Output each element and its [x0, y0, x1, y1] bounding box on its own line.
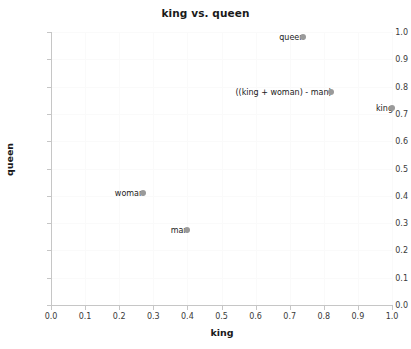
- gridline-horizontal: [51, 223, 392, 224]
- y-tick-mark: [47, 32, 51, 33]
- y-tick-label: 0.3: [367, 219, 411, 228]
- data-point-marker: [389, 105, 395, 111]
- x-tick-mark: [222, 306, 223, 310]
- x-tick-mark: [256, 306, 257, 310]
- x-tick-mark: [358, 306, 359, 310]
- data-point-marker: [140, 190, 146, 196]
- x-tick-mark: [290, 306, 291, 310]
- y-axis-label: queen: [4, 130, 15, 190]
- x-tick-label: 0.2: [113, 312, 126, 321]
- x-tick-mark: [51, 306, 52, 310]
- x-tick-label: 0.6: [249, 312, 262, 321]
- y-tick-mark: [47, 196, 51, 197]
- x-tick-mark: [187, 306, 188, 310]
- y-tick-label: 1.0: [367, 28, 411, 37]
- x-tick-label: 0.7: [283, 312, 296, 321]
- x-tick-label: 0.4: [181, 312, 194, 321]
- x-tick-mark: [153, 306, 154, 310]
- y-tick-mark: [47, 223, 51, 224]
- y-tick-mark: [47, 278, 51, 279]
- y-tick-label: 0.4: [367, 191, 411, 200]
- gridline-horizontal: [51, 196, 392, 197]
- x-tick-mark: [392, 306, 393, 310]
- gridline-horizontal: [51, 87, 392, 88]
- y-tick-label: 0.5: [367, 164, 411, 173]
- y-tick-label: 0.2: [367, 246, 411, 255]
- data-point-marker: [184, 227, 190, 233]
- gridline-horizontal: [51, 32, 392, 33]
- gridline-horizontal: [51, 250, 392, 251]
- y-tick-mark: [47, 250, 51, 251]
- y-tick-label: 0.0: [367, 301, 411, 310]
- y-tick-mark: [47, 141, 51, 142]
- x-tick-label: 0.5: [215, 312, 228, 321]
- x-axis-label: king: [51, 327, 393, 338]
- x-tick-mark: [324, 306, 325, 310]
- gridline-horizontal: [51, 169, 392, 170]
- x-tick-label: 0.9: [352, 312, 365, 321]
- gridline-horizontal: [51, 114, 392, 115]
- y-tick-label: 0.9: [367, 55, 411, 64]
- y-tick-mark: [47, 114, 51, 115]
- scatter-plot-figure: king vs. queen 0.00.10.20.30.40.50.60.70…: [0, 0, 411, 349]
- gridline-horizontal: [51, 59, 392, 60]
- plot-area: [51, 32, 392, 305]
- y-tick-label: 0.1: [367, 273, 411, 282]
- y-tick-label: 0.6: [367, 137, 411, 146]
- data-point-marker: [300, 34, 306, 40]
- y-tick-mark: [47, 87, 51, 88]
- x-tick-label: 0.1: [79, 312, 92, 321]
- x-tick-mark: [85, 306, 86, 310]
- chart-title: king vs. queen: [0, 7, 411, 19]
- gridline-horizontal: [51, 141, 392, 142]
- y-tick-label: 0.8: [367, 82, 411, 91]
- x-tick-mark: [119, 306, 120, 310]
- y-axis-spine: [51, 32, 52, 306]
- x-tick-label: 0.0: [45, 312, 58, 321]
- x-tick-label: 0.3: [147, 312, 160, 321]
- y-tick-mark: [47, 169, 51, 170]
- data-point-marker: [328, 89, 334, 95]
- data-point-label: ((king + woman) - man): [235, 88, 332, 97]
- gridline-horizontal: [51, 278, 392, 279]
- y-tick-mark: [47, 59, 51, 60]
- x-tick-label: 0.8: [317, 312, 330, 321]
- x-tick-label: 1.0: [386, 312, 399, 321]
